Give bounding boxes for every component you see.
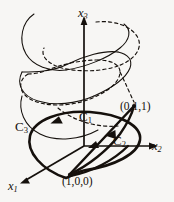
point-label-1-0-0: (1,0,0)	[62, 176, 93, 188]
axis-label-x2: x2	[152, 140, 162, 153]
helix-solid	[20, 14, 131, 139]
curve-c1-arrowhead	[88, 141, 99, 148]
figure-canvas: x3 x2 x1 C1 C2 C3 (0,1,1) (1,0,0)	[0, 0, 174, 202]
axis-label-x1: x1	[8, 180, 18, 193]
axis-label-x3: x3	[78, 7, 88, 20]
curve-label-c3: C3	[15, 120, 28, 133]
curve-label-c2: C2	[113, 134, 126, 147]
curve-label-c1: C1	[79, 110, 92, 123]
point-label-0-1-1: (0,1,1)	[120, 101, 151, 113]
